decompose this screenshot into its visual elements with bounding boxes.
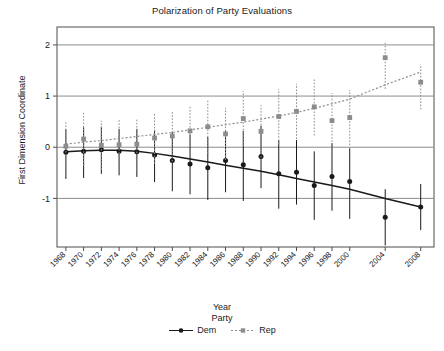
x-tick-label: 1998 bbox=[314, 250, 333, 269]
legend-entries: Dem Rep bbox=[0, 325, 444, 335]
data-point-rep[interactable] bbox=[205, 124, 210, 129]
data-point-rep[interactable] bbox=[99, 143, 104, 148]
x-tick-label: 2000 bbox=[332, 250, 351, 269]
data-point-rep[interactable] bbox=[81, 137, 86, 142]
data-point-rep[interactable] bbox=[134, 142, 139, 147]
data-point-rep[interactable] bbox=[276, 114, 281, 119]
data-point-rep[interactable] bbox=[330, 118, 335, 123]
data-point-rep[interactable] bbox=[170, 134, 175, 139]
x-tick-label: 1994 bbox=[279, 250, 298, 269]
chart-legend: Party Dem Rep bbox=[0, 313, 444, 335]
x-tick-label: 1986 bbox=[208, 250, 227, 269]
data-point-dem[interactable] bbox=[383, 215, 388, 220]
data-point-rep[interactable] bbox=[294, 109, 299, 114]
x-tick-label: 2008 bbox=[403, 250, 422, 269]
data-point-dem[interactable] bbox=[418, 205, 423, 210]
x-tick-label: 1980 bbox=[155, 250, 174, 269]
x-tick-label: 2004 bbox=[368, 250, 387, 269]
data-point-rep[interactable] bbox=[347, 115, 352, 120]
legend-item-dem[interactable]: Dem bbox=[168, 325, 216, 335]
x-tick-label: 1974 bbox=[102, 250, 121, 269]
x-tick-label: 1972 bbox=[84, 250, 103, 269]
data-point-dem[interactable] bbox=[329, 174, 334, 179]
y-tick-label: -1 bbox=[42, 194, 50, 204]
x-tick-label: 1978 bbox=[137, 250, 156, 269]
data-point-dem[interactable] bbox=[188, 162, 193, 167]
data-point-dem[interactable] bbox=[205, 165, 210, 170]
data-point-rep[interactable] bbox=[188, 128, 193, 133]
y-tick-label: 0 bbox=[45, 142, 50, 152]
data-point-dem[interactable] bbox=[276, 171, 281, 176]
chart-figure: Polarization of Party Evaluations First … bbox=[0, 0, 444, 351]
data-point-dem[interactable] bbox=[312, 183, 317, 188]
data-point-rep[interactable] bbox=[259, 129, 264, 134]
x-tick-label: 1992 bbox=[261, 250, 280, 269]
data-point-rep[interactable] bbox=[312, 104, 317, 109]
x-tick-label: 1976 bbox=[119, 250, 138, 269]
legend-item-rep[interactable]: Rep bbox=[230, 325, 276, 335]
data-point-rep[interactable] bbox=[117, 142, 122, 147]
legend-label-rep: Rep bbox=[259, 325, 276, 335]
data-point-dem[interactable] bbox=[347, 179, 352, 184]
x-tick-label: 1990 bbox=[243, 250, 262, 269]
x-tick-label: 1968 bbox=[48, 250, 67, 269]
legend-label-dem: Dem bbox=[197, 325, 216, 335]
data-point-rep[interactable] bbox=[152, 136, 157, 141]
x-tick-label: 1996 bbox=[297, 250, 316, 269]
data-point-dem[interactable] bbox=[294, 170, 299, 175]
x-tick-label: 1982 bbox=[173, 250, 192, 269]
plot-frame bbox=[57, 27, 434, 247]
y-tick-label: 1 bbox=[45, 91, 50, 101]
data-point-rep[interactable] bbox=[223, 132, 228, 137]
data-point-rep[interactable] bbox=[241, 116, 246, 121]
plot-area: -101219681970197219741976197819801982198… bbox=[0, 0, 444, 351]
x-tick-label: 1988 bbox=[226, 250, 245, 269]
x-tick-label: 1984 bbox=[190, 250, 209, 269]
y-tick-label: 2 bbox=[45, 40, 50, 50]
legend-key-rep-icon bbox=[230, 326, 256, 335]
legend-title: Party bbox=[0, 313, 444, 323]
x-tick-label: 1970 bbox=[66, 250, 85, 269]
data-point-rep[interactable] bbox=[418, 80, 423, 85]
data-point-rep[interactable] bbox=[383, 55, 388, 60]
legend-key-dem-icon bbox=[168, 326, 194, 335]
data-point-dem[interactable] bbox=[241, 162, 246, 167]
data-point-rep[interactable] bbox=[63, 144, 68, 149]
